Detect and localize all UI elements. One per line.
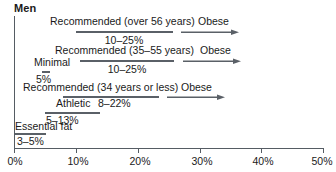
label-minimal: Minimal [34, 57, 70, 68]
label-obese-over-56: Obese [198, 16, 229, 27]
label-athletic: Athletic [56, 98, 90, 109]
x-tick-0 [14, 148, 15, 153]
x-axis-line [14, 148, 323, 149]
range-bar-recommended-35-55 [80, 60, 174, 62]
label-obese-34-or-less: Obese [181, 82, 212, 93]
x-tick-label-20: 20% [129, 155, 150, 167]
x-tick-50 [323, 148, 324, 153]
body-fat-chart: Men 0% 10% 20% 30% 40% 50% Recommended (… [0, 0, 336, 172]
value-essential-fat: 3–5% [17, 136, 44, 147]
x-tick-label-30: 30% [191, 155, 212, 167]
x-tick-40 [261, 148, 262, 153]
arrow-bar-obese-over-56 [181, 29, 239, 37]
label-essential-fat: Essential fat [15, 121, 72, 132]
label-recommended-35-55: Recommended (35–55 years) [55, 45, 194, 56]
x-tick-label-0: 0% [7, 155, 22, 167]
value-recommended-35-55: 10–25% [108, 64, 147, 75]
x-tick-20 [138, 148, 139, 153]
chart-title: Men [14, 2, 36, 14]
x-tick-30 [200, 148, 201, 153]
label-recommended-34-or-less: Recommended (34 years or less) [23, 82, 178, 93]
value-recommended-34-or-less: 8–22% [98, 98, 131, 109]
label-recommended-over-56: Recommended (over 56 years) [50, 16, 195, 27]
label-obese-35-55: Obese [200, 45, 231, 56]
x-tick-label-40: 40% [252, 155, 273, 167]
x-tick-label-50: 50% [311, 155, 332, 167]
arrow-bar-obese-34-or-less [167, 94, 225, 102]
arrow-bar-obese-35-55 [183, 58, 241, 66]
range-bar-recommended-over-56 [76, 31, 173, 33]
x-tick-label-10: 10% [67, 155, 88, 167]
x-tick-10 [76, 148, 77, 153]
